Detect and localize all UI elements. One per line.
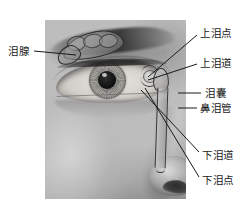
lacrimal-apparatus-figure: 泪腺上泪点上泪道泪囊鼻泪管下泪道下泪点 <box>0 0 252 211</box>
nasolacrimal-duct-outlet <box>156 164 165 173</box>
label-inferior-punctum: 下泪点 <box>202 175 234 186</box>
label-inferior-canaliculus: 下泪道 <box>202 150 234 161</box>
corneal-catchlight <box>102 73 107 77</box>
label-nasolacrimal-duct: 鼻泪管 <box>200 103 232 114</box>
label-superior-punctum: 上泪点 <box>200 28 232 39</box>
label-lacrimal-gland: 泪腺 <box>8 46 29 57</box>
pupil <box>98 71 116 89</box>
label-lacrimal-sac: 泪囊 <box>205 88 226 99</box>
anatomy-photo <box>45 20 186 199</box>
label-superior-canaliculus: 上泪道 <box>200 58 232 69</box>
